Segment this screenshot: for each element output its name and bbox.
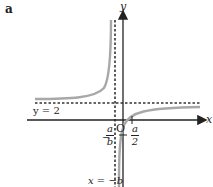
x-axis-label: x	[206, 114, 212, 125]
origin-label: O	[116, 123, 125, 134]
y-intercept-fraction: a b	[106, 124, 114, 147]
horizontal-asymptote-label: y = 2	[33, 106, 60, 116]
vertical-asymptote-label: x = −b	[88, 176, 123, 186]
x-intercept-denominator: 2	[132, 137, 138, 147]
panel-label: a	[5, 3, 13, 15]
diagram: a y x y = 2 O x = −b − a b a 2	[0, 0, 213, 187]
x-intercept-fraction: a 2	[131, 124, 139, 147]
y-intercept-numerator: a	[107, 124, 113, 134]
graph-canvas	[0, 0, 213, 187]
curve-left-branch	[35, 20, 111, 99]
y-axis-label: y	[120, 1, 126, 12]
y-intercept-denominator: b	[107, 137, 113, 147]
curve-right-branch	[119, 107, 200, 187]
x-intercept-numerator: a	[132, 124, 138, 134]
